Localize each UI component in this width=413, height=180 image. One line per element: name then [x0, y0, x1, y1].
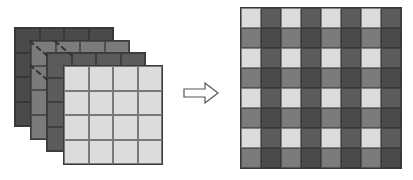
output-cell-layer3 — [261, 88, 281, 108]
output-cell-layer2 — [321, 108, 341, 128]
output-cell-layer3 — [381, 128, 401, 148]
output-cell-layer4 — [281, 128, 301, 148]
output-cell-layer4 — [241, 48, 261, 68]
output-cell-layer2 — [361, 108, 381, 128]
output-cell-layer4 — [361, 8, 381, 28]
output-cell-layer2 — [281, 28, 301, 48]
output-cell-layer1 — [261, 108, 281, 128]
output-cell-layer4 — [321, 128, 341, 148]
output-cell-layer1 — [381, 28, 401, 48]
output-cell-layer1 — [301, 68, 321, 88]
input-cell — [113, 91, 138, 116]
hollow-right-arrow-icon — [183, 82, 219, 104]
output-cell-layer1 — [261, 148, 281, 168]
output-cell-layer3 — [381, 88, 401, 108]
output-cell-layer1 — [381, 68, 401, 88]
input-cell — [113, 140, 138, 165]
output-cell-layer4 — [241, 88, 261, 108]
output-cell-layer1 — [381, 148, 401, 168]
output-grid — [240, 7, 402, 169]
input-layer-4 — [63, 65, 163, 165]
output-cell-layer1 — [341, 28, 361, 48]
output-cell-layer2 — [241, 148, 261, 168]
output-cell-layer2 — [241, 68, 261, 88]
output-cell-layer1 — [301, 108, 321, 128]
output-cell-layer1 — [341, 148, 361, 168]
output-cell-layer2 — [241, 28, 261, 48]
output-cell-layer4 — [321, 48, 341, 68]
input-cell — [89, 91, 114, 116]
input-cell — [138, 66, 163, 91]
input-cell — [113, 115, 138, 140]
output-cell-layer1 — [261, 68, 281, 88]
output-cell-layer1 — [341, 108, 361, 128]
output-cell-layer2 — [321, 68, 341, 88]
output-cell-layer4 — [361, 128, 381, 148]
output-cell-layer1 — [301, 28, 321, 48]
output-cell-layer4 — [361, 88, 381, 108]
output-cell-layer2 — [321, 148, 341, 168]
output-cell-layer2 — [361, 28, 381, 48]
output-cell-layer2 — [321, 28, 341, 48]
input-cell — [138, 140, 163, 165]
input-cell — [64, 140, 89, 165]
output-cell-layer1 — [381, 108, 401, 128]
input-cell — [64, 115, 89, 140]
output-cell-layer2 — [241, 108, 261, 128]
output-cell-layer3 — [261, 128, 281, 148]
output-cell-layer3 — [301, 88, 321, 108]
output-cell-layer2 — [281, 68, 301, 88]
input-cell — [138, 91, 163, 116]
output-cell-layer4 — [281, 48, 301, 68]
output-cell-layer4 — [281, 88, 301, 108]
input-cell — [89, 115, 114, 140]
output-cell-layer2 — [281, 108, 301, 128]
output-cell-layer2 — [361, 148, 381, 168]
output-cell-layer4 — [241, 8, 261, 28]
input-cell — [64, 91, 89, 116]
output-cell-layer3 — [301, 48, 321, 68]
output-cell-layer3 — [341, 48, 361, 68]
input-cell — [113, 66, 138, 91]
output-cell-layer3 — [341, 88, 361, 108]
output-cell-layer2 — [361, 68, 381, 88]
output-cell-layer2 — [281, 148, 301, 168]
output-cell-layer4 — [281, 8, 301, 28]
input-cell — [89, 66, 114, 91]
output-cell-layer3 — [381, 8, 401, 28]
output-cell-layer3 — [301, 128, 321, 148]
output-cell-layer4 — [361, 48, 381, 68]
output-cell-layer4 — [321, 88, 341, 108]
output-cell-layer3 — [301, 8, 321, 28]
output-cell-layer1 — [261, 28, 281, 48]
output-cell-layer4 — [321, 8, 341, 28]
output-cell-layer3 — [261, 48, 281, 68]
input-cell — [89, 140, 114, 165]
output-cell-layer1 — [301, 148, 321, 168]
input-cell — [138, 115, 163, 140]
output-cell-layer3 — [381, 48, 401, 68]
output-cell-layer3 — [341, 128, 361, 148]
output-cell-layer1 — [341, 68, 361, 88]
output-cell-layer3 — [341, 8, 361, 28]
output-cell-layer4 — [241, 128, 261, 148]
input-cell — [64, 66, 89, 91]
output-cell-layer3 — [261, 8, 281, 28]
